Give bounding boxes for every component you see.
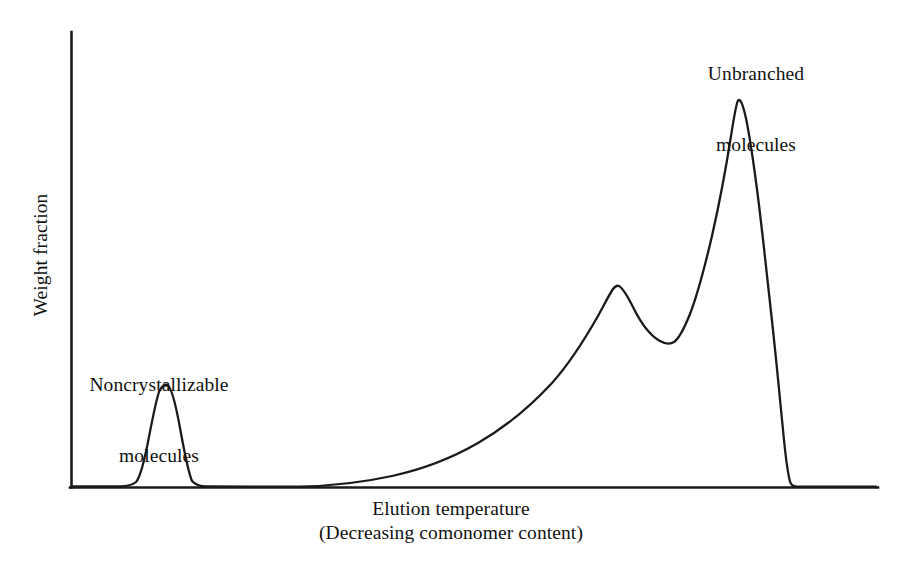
chart-plot-area [0,0,914,566]
elution-temperature-chart: Weight fraction Elution temperature (Dec… [0,0,914,566]
weight-fraction-curve [73,100,876,487]
